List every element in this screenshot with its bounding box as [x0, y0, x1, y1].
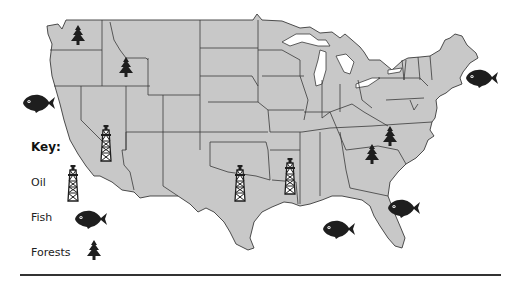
key-label-fish: Fish [31, 211, 52, 224]
bottom-divider [20, 274, 501, 276]
tree-icon [87, 240, 101, 260]
oil-marker-california [101, 125, 111, 161]
oil-marker-louisiana [285, 158, 295, 194]
key-label-forests: Forests [31, 246, 71, 259]
oil-derrick-icon [68, 165, 78, 201]
us-map [0, 0, 525, 283]
fish-icon [75, 211, 107, 229]
key-label-oil: Oil [31, 176, 46, 189]
fish-marker-maine [466, 70, 498, 88]
fish-marker-pacific [23, 95, 55, 113]
key-title: Key: [31, 140, 61, 154]
oil-marker-texas [235, 165, 245, 201]
fish-marker-gulf [323, 221, 355, 239]
